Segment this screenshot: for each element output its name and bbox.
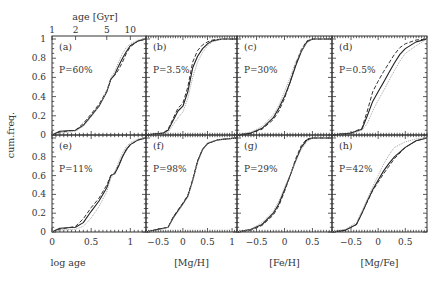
curve-dashed — [146, 39, 237, 135]
curve-dashed — [52, 138, 146, 232]
p-value-label: P=29% — [244, 164, 278, 174]
panel-tag: (h) — [339, 140, 353, 151]
x-tick-label: 0 — [49, 237, 55, 247]
panel-c: (c)P=30% — [237, 36, 332, 135]
x-tick-label: −0.5 — [340, 237, 362, 247]
x-tick-label: 0 — [375, 237, 381, 247]
top-tick-label: 10 — [125, 25, 137, 35]
curve-dotted — [52, 39, 146, 135]
panel-tag: (g) — [244, 140, 258, 151]
curve-dotted — [146, 39, 237, 135]
top-tick-label: 1 — [49, 25, 55, 35]
x-tick-label: −0.5 — [147, 237, 169, 247]
curve-dotted — [332, 39, 427, 135]
curve-solid — [332, 138, 427, 232]
panel-e: (e)P=11% — [52, 135, 146, 232]
curve-solid — [332, 39, 427, 135]
x-axis-label: [Fe/H] — [269, 257, 300, 268]
x-tick-label: 0 — [180, 237, 186, 247]
x-tick-label: 0.5 — [84, 237, 99, 247]
panel-grid: (a)P=60%(b)P=3.5%(c)P=30%(d)P=0.5%(e)P=1… — [52, 36, 427, 232]
p-value-label: P=42% — [339, 164, 373, 174]
curve-solid — [146, 138, 237, 232]
x-tick-label: 0.5 — [200, 237, 215, 247]
top-axis-label: age [Gyr] — [72, 11, 117, 22]
curve-solid — [237, 39, 332, 135]
x-tick-label: −0.5 — [246, 237, 268, 247]
x-tick-label: 0.5 — [305, 237, 320, 247]
p-value-label: P=11% — [59, 164, 93, 174]
x-axis-label: log age — [50, 257, 86, 268]
panel-tag: (e) — [59, 140, 72, 151]
panel-tag: (a) — [59, 41, 72, 52]
curve-dotted — [237, 39, 332, 135]
p-value-label: P=0.5% — [339, 65, 376, 75]
x-tick-label: 0 — [282, 237, 288, 247]
top-tick-label: 2 — [73, 25, 79, 35]
panel-f: (f)P=98% — [146, 135, 237, 232]
y-tick-label: 0.6 — [32, 72, 47, 82]
curve-solid — [52, 39, 146, 135]
x-tick-label: 1 — [127, 237, 133, 247]
y-tick-label: 1 — [40, 34, 46, 44]
p-value-label: P=30% — [244, 65, 278, 75]
curve-solid — [237, 138, 332, 232]
y-tick-label: 0.4 — [32, 189, 47, 199]
y-tick-label: 0 — [40, 227, 46, 237]
x-axis-label: [Mg/H] — [174, 257, 209, 268]
y-tick-label: 0.8 — [32, 152, 47, 162]
y-tick-label: 0.2 — [32, 208, 46, 218]
curve-dashed — [332, 138, 427, 232]
panel-b: (b)P=3.5% — [146, 36, 237, 135]
panel-tag: (d) — [339, 41, 353, 52]
x-tick-label: 1 — [229, 237, 235, 247]
curve-dotted — [237, 138, 332, 232]
curve-solid — [146, 39, 237, 135]
y-tick-label: 0.6 — [32, 171, 47, 181]
x-tick-label: 0.5 — [398, 237, 413, 247]
curve-dashed — [237, 39, 332, 135]
y-tick-label: 0.8 — [32, 53, 47, 63]
panel-d: (d)P=0.5% — [332, 36, 427, 135]
curve-dashed — [237, 138, 332, 232]
p-value-label: P=3.5% — [153, 65, 190, 75]
panel-h: (h)P=42% — [332, 135, 427, 232]
cumulative-frequency-figure: (a)P=60%(b)P=3.5%(c)P=30%(d)P=0.5%(e)P=1… — [0, 0, 441, 283]
curve-dashed — [52, 39, 146, 135]
p-value-label: P=98% — [153, 164, 187, 174]
panel-tag: (c) — [244, 41, 257, 52]
y-tick-label: 0 — [40, 130, 46, 140]
panel-a: (a)P=60% — [52, 36, 146, 135]
curve-solid — [52, 138, 146, 232]
curve-dotted — [332, 138, 427, 232]
top-tick-label: 5 — [104, 25, 110, 35]
y-tick-label: 0.2 — [32, 111, 46, 121]
panel-tag: (f) — [153, 140, 164, 151]
panel-g: (g)P=29% — [237, 135, 332, 232]
p-value-label: P=60% — [59, 65, 93, 75]
panel-tag: (b) — [153, 41, 167, 52]
y-axis-label: cum.freq. — [5, 112, 16, 158]
curve-dotted — [52, 138, 146, 232]
curve-dashed — [332, 39, 427, 135]
y-tick-label: 0.4 — [32, 92, 47, 102]
x-axis-label: [Mg/Fe] — [360, 257, 398, 268]
